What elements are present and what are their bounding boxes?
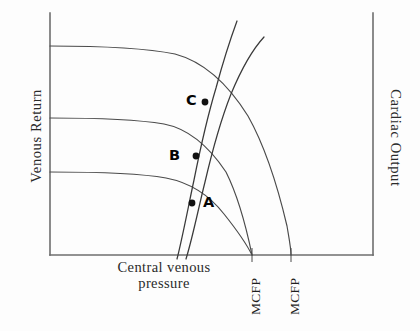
x-axis-title: Central venous pressure (88, 260, 240, 291)
operating-point-label-a: A (203, 195, 214, 211)
y2-axis-title-cardiac-output: Cardiac Output (387, 56, 403, 220)
cardiac-function-curve-normal (177, 21, 237, 259)
operating-point-c (202, 99, 209, 106)
x-axis-title-line-1: Central venous (88, 260, 240, 276)
venous-return-curve-low (50, 172, 252, 255)
cardiac-function-curve-shifted (186, 37, 264, 259)
x-axis-title-line-2: pressure (88, 276, 240, 292)
operating-point-b (193, 153, 200, 160)
operating-point-label-b: B (169, 148, 180, 164)
guyton-cardiac-output-diagram: Venous Return Cardiac Output Central ven… (0, 0, 420, 331)
operating-point-a (189, 200, 196, 207)
venous-return-curve-mid (50, 118, 252, 255)
operating-point-label-c: C (186, 93, 197, 109)
mcfp-label-2: MCFP (288, 278, 303, 315)
y-axis-title-venous-return: Venous Return (29, 54, 45, 218)
mcfp-label-1: MCFP (249, 278, 264, 315)
